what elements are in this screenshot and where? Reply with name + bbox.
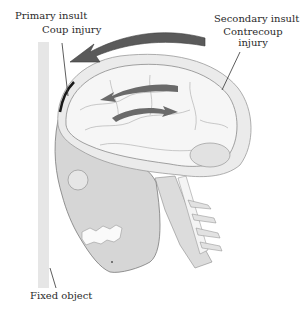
coup-leader-line bbox=[62, 43, 68, 96]
contrecoup-line2: injury bbox=[218, 37, 288, 48]
primary-insult-label: Primary insult bbox=[15, 10, 87, 21]
contrecoup-line1: Contrecoup bbox=[218, 26, 288, 37]
spine-icon bbox=[155, 176, 222, 268]
cerebellum bbox=[190, 143, 230, 167]
fixed-object-label: Fixed object bbox=[30, 290, 92, 301]
contrecoup-label: Contrecoup injury bbox=[218, 26, 288, 48]
coup-injury-label: Coup injury bbox=[42, 24, 101, 35]
fixed-object-wall bbox=[38, 42, 49, 288]
fixed-object-leader-line bbox=[50, 268, 56, 288]
secondary-insult-label: Secondary insult bbox=[214, 13, 299, 24]
